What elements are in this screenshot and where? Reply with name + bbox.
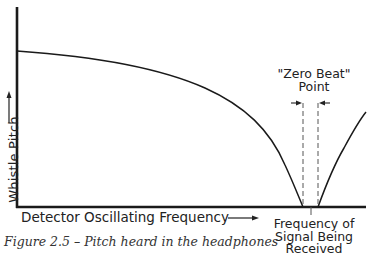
- pitch-curve-right: [318, 112, 366, 207]
- zero-beat-line2: Point: [262, 80, 366, 93]
- zero-beat-annotation: "Zero Beat" Point: [262, 67, 366, 93]
- zero-beat-arrow-right-icon: [319, 101, 330, 106]
- figure-caption: Figure 2.5 – Pitch heard in the headphon…: [4, 234, 278, 249]
- zero-beat-arrow-left-icon: [291, 101, 302, 106]
- x-axis-label: Detector Oscillating Frequency: [21, 209, 229, 225]
- y-axis-label: Whistle Pitch: [6, 110, 21, 210]
- pitch-chart: Whistle Pitch Detector Oscillating Frequ…: [0, 0, 370, 257]
- x-arrow-icon: [228, 216, 259, 221]
- pitch-curve-left: [17, 51, 303, 207]
